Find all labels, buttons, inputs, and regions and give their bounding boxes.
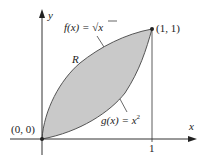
f-label-rhs: x <box>97 21 103 33</box>
origin-label: (0, 0) <box>11 123 35 136</box>
leader-line-g <box>120 99 127 112</box>
x-axis-label: x <box>188 120 194 132</box>
g-label-main: g(x) = x <box>101 114 137 127</box>
point-origin <box>40 137 44 141</box>
point-one-one <box>150 27 154 31</box>
g-label: g(x) = x2 <box>101 113 141 127</box>
f-label-lhs: f(x) = <box>64 21 92 34</box>
x-axis-arrow-icon <box>188 136 197 142</box>
region-label: R <box>71 53 79 65</box>
region-diagram: y x 1 (0, 0) (1, 1) R f(x) = √x g(x) = x… <box>0 0 207 164</box>
y-axis-label: y <box>47 9 53 21</box>
y-axis-arrow-icon <box>39 9 45 18</box>
leader-line-f <box>97 36 104 47</box>
x-tick-label: 1 <box>149 142 155 154</box>
g-label-exponent: 2 <box>137 113 141 121</box>
f-label: f(x) = √x <box>64 21 103 34</box>
point-one-one-label: (1, 1) <box>156 22 180 35</box>
